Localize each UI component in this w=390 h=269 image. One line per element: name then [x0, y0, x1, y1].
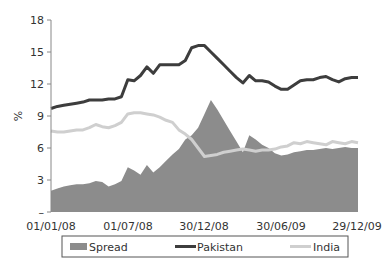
x-tick-label: 01/07/08: [103, 220, 152, 233]
pakistan-line: [51, 46, 358, 109]
legend-swatch-india: [290, 245, 311, 248]
legend-label-pakistan: Pakistan: [197, 241, 243, 254]
x-tick-label: 01/01/08: [26, 220, 75, 233]
legend-swatch-spread: [70, 243, 87, 250]
plot-area: [51, 46, 358, 212]
y-tick-label: 18: [30, 14, 44, 27]
y-axis-label: %: [12, 111, 25, 121]
legend-label-india: India: [313, 241, 340, 254]
x-tick-label: 30/12/08: [179, 220, 228, 233]
legend-swatch-pakistan: [175, 245, 196, 248]
y-tick-label: 3: [37, 174, 44, 187]
y-axis-ticks: –369121518: [30, 14, 51, 219]
y-tick-label: 6: [37, 142, 44, 155]
legend-label-spread: Spread: [89, 241, 128, 254]
legend: Spread Pakistan India: [62, 236, 348, 257]
chart: –369121518 % 01/01/0801/07/0830/12/0830/…: [0, 0, 390, 269]
x-axis-ticks: 01/01/0801/07/0830/12/0830/06/0929/12/09: [26, 220, 381, 233]
y-tick-label: 12: [30, 78, 44, 91]
y-tick-label: 9: [37, 110, 44, 123]
y-tick-label: 15: [30, 46, 44, 59]
x-tick-label: 29/12/09: [332, 220, 381, 233]
y-tick-label: –: [39, 206, 45, 219]
x-tick-label: 30/06/09: [256, 220, 305, 233]
